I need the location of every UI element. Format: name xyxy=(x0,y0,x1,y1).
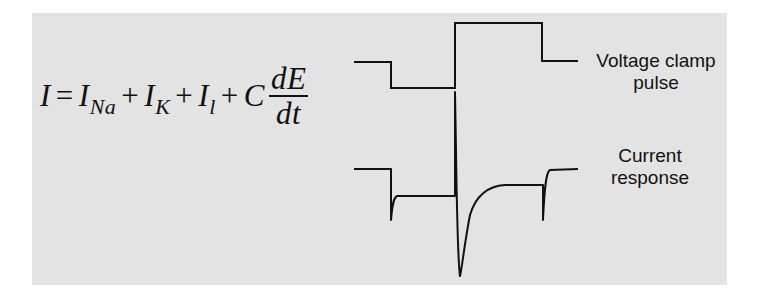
voltage-clamp-label: Voltage clamp pulse xyxy=(583,50,729,94)
current-response-trace xyxy=(354,92,578,276)
current-response-label: Current response xyxy=(588,145,712,189)
voltage-clamp-trace xyxy=(354,23,578,88)
